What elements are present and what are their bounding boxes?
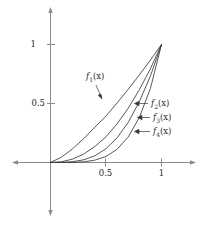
curve-label-f3: f3(x) — [153, 113, 171, 124]
y-axis-top-arrow — [48, 7, 52, 13]
plot-canvas — [0, 0, 205, 226]
curve-label-f1: f1(x) — [86, 72, 104, 83]
curve-label-f2-arg: (x) — [158, 98, 169, 108]
f4-arrow-head — [135, 129, 140, 133]
annotation-arrows — [96, 85, 150, 134]
f2-arrow-head — [135, 101, 140, 105]
x-axis-right-arrow — [190, 160, 196, 164]
x-axis-left-arrow — [12, 160, 18, 164]
y-axis-tick-label-1: 1 — [31, 40, 36, 49]
curve-label-f3-arg: (x) — [160, 112, 171, 122]
x-axis-tick-label-0-5: 0.5 — [99, 169, 113, 178]
curve-label-f4-arg: (x) — [160, 126, 171, 136]
function-comparison-plot: 1 0.5 0.5 1 f1(x) f2(x) f3(x) f4(x) — [0, 0, 205, 226]
f1-arrow-head — [98, 94, 102, 99]
y-axis-tick-label-0-5: 0.5 — [31, 99, 45, 108]
curve-label-f1-arg: (x) — [93, 71, 104, 81]
curve-label-f2: f2(x) — [151, 99, 169, 110]
x-axis-tick-label-1: 1 — [159, 169, 164, 178]
curve-label-f4: f4(x) — [153, 127, 171, 138]
y-axis-bottom-arrow — [48, 210, 52, 216]
